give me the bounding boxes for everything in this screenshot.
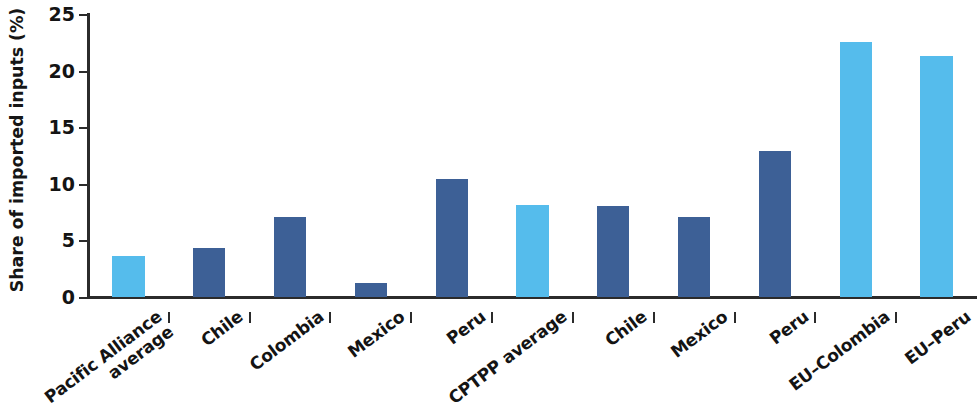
x-axis-tick-mark: [329, 312, 331, 323]
y-axis-tick-label: 15: [49, 118, 75, 137]
y-axis-tick-mark: [79, 240, 88, 242]
bar[interactable]: [274, 217, 306, 297]
x-axis-label: EU–Peru: [901, 307, 974, 369]
bar[interactable]: [355, 283, 387, 297]
x-axis-label-line1: Mexico: [667, 306, 732, 362]
bar[interactable]: [840, 42, 872, 297]
x-axis-label-line1: Peru: [765, 306, 812, 348]
bar[interactable]: [193, 248, 225, 297]
y-axis-title: Share of imported inputs (%): [0, 0, 34, 300]
x-axis-label-line1: Mexico: [344, 306, 409, 362]
bar[interactable]: [516, 205, 548, 297]
y-axis-tick-mark: [79, 297, 88, 299]
x-axis-label-line1: EU–Colombia: [785, 306, 893, 395]
x-axis-tick-mark: [895, 312, 897, 323]
x-axis-label-line1: Chile: [601, 306, 650, 350]
x-axis-label-line1: EU–Peru: [900, 306, 974, 368]
x-axis-label: Colombia: [246, 307, 327, 375]
x-axis-tick-mark: [572, 312, 574, 323]
y-axis-tick-mark: [79, 71, 88, 73]
x-axis-label-line1: Chile: [197, 306, 246, 350]
bar[interactable]: [597, 206, 629, 297]
x-axis-label: Mexico: [668, 307, 732, 362]
y-axis-tick-mark: [79, 14, 88, 16]
y-axis-tick-label: 10: [49, 174, 75, 193]
x-axis-label-line1: Pacific Alliance: [41, 306, 166, 407]
x-axis-label-line1: Peru: [442, 306, 489, 348]
y-axis-tick-mark: [79, 127, 88, 129]
x-axis-label: EU–Colombia: [785, 307, 893, 395]
bar[interactable]: [759, 151, 791, 297]
bar[interactable]: [436, 179, 468, 297]
y-axis-tick-label: 0: [62, 288, 75, 307]
y-axis-tick-mark: [79, 184, 88, 186]
bar-chart: Share of imported inputs (%) 0510152025 …: [0, 0, 977, 415]
x-axis-label-line1: CPTPP average: [444, 306, 570, 408]
x-axis-label: Peru: [443, 307, 489, 348]
y-axis-tick-label: 5: [62, 231, 75, 250]
plot-area: 0510152025: [88, 14, 977, 297]
x-axis-label: Chile: [198, 307, 247, 350]
y-axis-title-text: Share of imported inputs (%): [7, 8, 27, 293]
x-axis-label-line1: Colombia: [246, 306, 328, 374]
x-axis-tick-mark: [814, 312, 816, 323]
x-axis-tick-mark: [168, 312, 170, 323]
bar[interactable]: [678, 217, 710, 297]
y-axis-tick-label: 20: [49, 61, 75, 80]
bar[interactable]: [920, 56, 952, 297]
x-axis-label: Mexico: [344, 307, 408, 362]
y-axis-tick-label: 25: [49, 5, 75, 24]
x-axis-label: CPTPP average: [445, 307, 570, 408]
x-axis-tick-mark: [653, 312, 655, 323]
x-axis-tick-mark: [491, 312, 493, 323]
bar[interactable]: [112, 256, 144, 297]
x-axis-tick-mark: [249, 312, 251, 323]
x-axis-tick-mark: [410, 312, 412, 323]
x-axis-label: Chile: [602, 307, 651, 350]
x-axis-label-line2: average: [53, 322, 177, 415]
x-axis-label: Peru: [766, 307, 812, 348]
x-axis-label: Pacific Allianceaverage: [42, 307, 178, 415]
x-axis-tick-mark: [734, 312, 736, 323]
